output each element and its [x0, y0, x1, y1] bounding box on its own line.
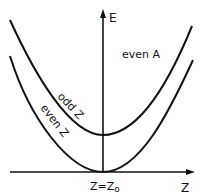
- e-axis: [100, 9, 106, 172]
- z0-tick-sub: o: [114, 184, 120, 194]
- even-a-label: even A: [122, 48, 161, 61]
- z0-tick-label: Z=Zo: [90, 180, 120, 194]
- diagram: E Z Z=Zo even A odd Z even Z: [0, 0, 205, 195]
- z-axis-label: Z: [181, 181, 189, 195]
- e-axis-label: E: [109, 11, 117, 25]
- z0-tick-main: Z=Z: [90, 180, 115, 193]
